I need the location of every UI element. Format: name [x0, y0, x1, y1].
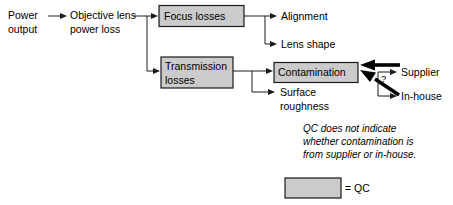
- leaf-supplier-label: Supplier: [401, 66, 440, 78]
- box-contamination[interactable]: Contamination: [274, 63, 358, 83]
- note-line2: whether contamination is: [303, 136, 414, 147]
- arrow-to-transmission-losses: [147, 68, 160, 74]
- box-focus-losses-label: Focus losses: [164, 10, 225, 22]
- level1-label-line2: power loss: [70, 23, 120, 35]
- box-transmission-losses[interactable]: Transmission losses: [161, 57, 233, 88]
- legend-label: = QC: [345, 182, 370, 194]
- legend-swatch-qc: [285, 178, 341, 198]
- arrow-to-focus-losses: [147, 13, 158, 19]
- level1-label-line1: Objective lens: [70, 9, 136, 21]
- thick-arrow-supplier-to-contamination: [360, 60, 400, 71]
- leaf-in-house-label: In-house: [401, 90, 442, 102]
- root-label-line1: Power: [8, 9, 38, 21]
- arrow-to-alignment: [265, 13, 277, 19]
- question-mark-label: ?: [381, 73, 386, 84]
- leaf-surface-roughness-label-line2: roughness: [280, 100, 329, 112]
- note-line1: QC does not indicate: [303, 123, 397, 134]
- connector-level1-trunk: [133, 16, 147, 71]
- box-transmission-losses-label-line2: losses: [165, 74, 195, 86]
- box-transmission-losses-label-line1: Transmission: [165, 60, 227, 72]
- leaf-alignment-label: Alignment: [281, 10, 328, 22]
- arrow-root-to-level1: [48, 13, 67, 19]
- leaf-lens-shape-label: Lens shape: [281, 38, 335, 50]
- box-focus-losses[interactable]: Focus losses: [159, 6, 244, 27]
- arrow-to-contamination: [252, 68, 273, 74]
- arrow-to-surface-roughness: [252, 89, 275, 95]
- box-contamination-label: Contamination: [278, 66, 346, 78]
- connector-focus-branch: [244, 16, 265, 44]
- diagram-root: Power output Objective lens power loss: [0, 0, 453, 205]
- legend: = QC: [285, 178, 370, 198]
- note-line3: from supplier or in-house.: [303, 149, 416, 160]
- root-label-line2: output: [8, 23, 37, 35]
- diagram-canvas: Power output Objective lens power loss: [0, 0, 453, 205]
- arrow-to-lens-shape: [265, 41, 277, 47]
- leaf-surface-roughness-label-line1: Surface: [280, 86, 316, 98]
- connector-transmission-branch: [233, 71, 252, 92]
- thick-arrow-inhouse-to-contamination: [360, 70, 399, 95]
